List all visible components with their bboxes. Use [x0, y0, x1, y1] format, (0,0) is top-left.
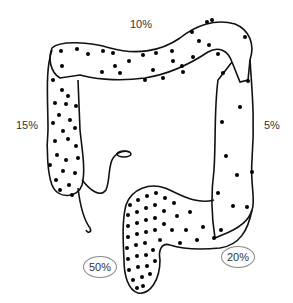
appendix-outline — [78, 188, 91, 232]
sigmoid-percent-label: 20% — [221, 246, 255, 268]
descending-percent-label: 5% — [264, 119, 280, 131]
lesion-dots — [48, 18, 254, 290]
rectum-percent-label: 50% — [83, 256, 117, 278]
colon-diagram: 10% 15% 5% 50% 20% — [0, 0, 293, 303]
descending-colon-outline — [212, 60, 254, 238]
transverse-percent-label: 10% — [130, 18, 152, 30]
ascending-percent-label: 15% — [16, 119, 38, 131]
